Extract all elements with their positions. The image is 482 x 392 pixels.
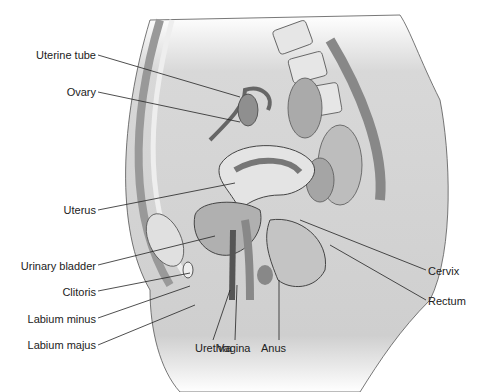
- anatomy-diagram: Uterine tubeOvaryUterusUrinary bladderCl…: [0, 0, 482, 392]
- body-silhouette: [126, 15, 449, 392]
- label-cervix: Cervix: [428, 265, 459, 277]
- label-rectum: Rectum: [428, 295, 466, 307]
- label-uterine-tube: Uterine tube: [36, 49, 96, 61]
- label-vagina: Vagina: [217, 342, 250, 354]
- label-uterus: Uterus: [64, 204, 96, 216]
- label-anus: Anus: [261, 342, 286, 354]
- label-urinary-bladder: Urinary bladder: [21, 260, 96, 272]
- label-labium-minus: Labium minus: [28, 313, 96, 325]
- label-clitoris: Clitoris: [62, 286, 96, 298]
- label-labium-majus: Labium majus: [28, 339, 96, 351]
- label-ovary: Ovary: [67, 86, 96, 98]
